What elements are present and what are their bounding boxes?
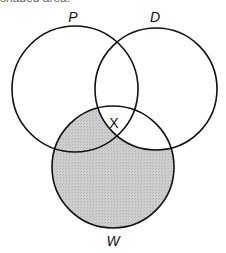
- label-w: W: [106, 233, 121, 249]
- label-d: D: [150, 9, 160, 25]
- marker-x: X: [109, 115, 119, 131]
- venn-diagram: P D W X: [0, 0, 226, 253]
- label-p: P: [68, 9, 78, 25]
